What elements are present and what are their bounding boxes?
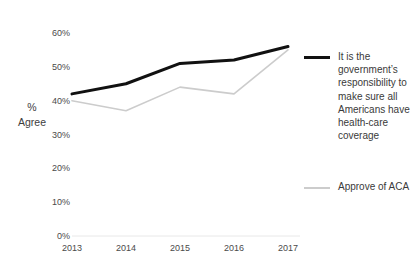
chart-legend: It is the government’s responsibility to… <box>304 50 410 208</box>
legend-label-series-2: Approve of ACA <box>338 180 410 193</box>
legend-label-series-1: It is the government’s responsibility to… <box>338 50 410 142</box>
line-chart: % Agree 0%10%20%30%40%50%60% 20132014201… <box>0 0 413 270</box>
legend-item-government-responsibility: It is the government’s responsibility to… <box>304 50 410 142</box>
legend-item-approve-of-aca: Approve of ACA <box>304 180 410 194</box>
series-line-approve-of-aca <box>72 50 288 111</box>
legend-swatch-icon-series-2 <box>304 187 330 189</box>
legend-swatch-icon-series-1 <box>304 56 330 59</box>
